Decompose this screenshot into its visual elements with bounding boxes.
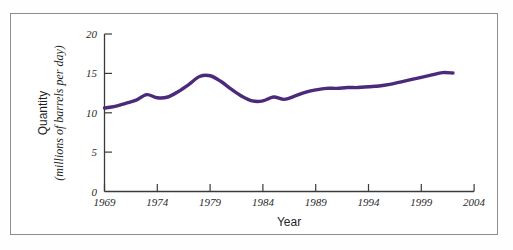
- figure-root: 20 15 10 5 0 1969 1974 1979 1984 1989 19…: [0, 0, 513, 250]
- y-tick-marks: [105, 34, 113, 152]
- y-tick-label-15: 15: [86, 67, 98, 79]
- y-axis-title-line2: (millions of barrels per day): [52, 45, 66, 181]
- x-tick-label-2004: 2004: [463, 196, 486, 208]
- x-tick-label-1979: 1979: [199, 196, 222, 208]
- x-tick-label-1969: 1969: [94, 196, 117, 208]
- data-series-quantity-line: [105, 72, 453, 108]
- x-tick-label-1989: 1989: [305, 196, 328, 208]
- figure-frame: 20 15 10 5 0 1969 1974 1979 1984 1989 19…: [10, 13, 498, 235]
- x-axis-title: Year: [277, 215, 301, 229]
- x-tick-label-1994: 1994: [358, 196, 381, 208]
- x-tick-label-1974: 1974: [146, 196, 169, 208]
- x-tick-label-1999: 1999: [410, 196, 433, 208]
- line-chart-plot: 20 15 10 5 0 1969 1974 1979 1984 1989 19…: [11, 14, 497, 234]
- y-axis-title-line1: Quantity: [36, 91, 50, 136]
- x-tick-marks: [105, 184, 475, 192]
- y-tick-label-20: 20: [86, 28, 98, 40]
- y-tick-label-10: 10: [86, 107, 98, 119]
- x-tick-label-1984: 1984: [252, 196, 275, 208]
- y-tick-label-5: 5: [92, 146, 98, 158]
